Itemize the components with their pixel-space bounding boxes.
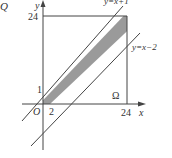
line-label-x-plus-1: y=x+1: [103, 0, 129, 6]
line-label-x-minus-2: y=x−2: [131, 42, 157, 52]
x-tick-24: 24: [121, 107, 131, 118]
coordinate-plot: Q y 24 1 O 2 24 x Ω y=x+1 y=x−2: [0, 0, 172, 158]
y-axis-label: y: [34, 0, 40, 11]
y-tick-1: 1: [37, 84, 42, 95]
region-omega-label: Ω: [112, 90, 119, 101]
y-tick-24: 24: [28, 11, 38, 22]
corner-label: Q: [0, 0, 8, 12]
x-tick-2: 2: [49, 106, 54, 117]
x-axis-label: x: [138, 107, 144, 118]
y-axis-arrow-icon: [41, 0, 46, 7]
line-y-eq-x-minus-2: [31, 33, 140, 146]
origin-label: O: [33, 106, 40, 117]
x-axis-arrow-icon: [138, 102, 146, 107]
diagram-figure: Q y 24 1 O 2 24 x Ω y=x+1 y=x−2: [0, 0, 172, 158]
